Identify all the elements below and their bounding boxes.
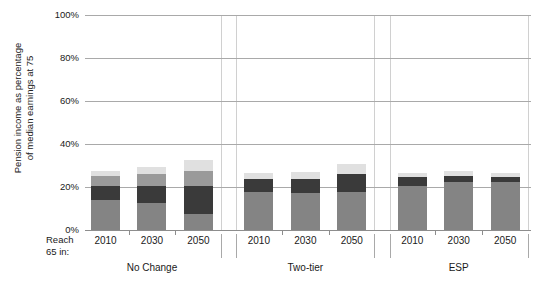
bar-segment-dark bbox=[398, 177, 427, 186]
bar-segment-base bbox=[91, 200, 120, 230]
x-axis-line bbox=[85, 230, 531, 231]
plot-area: 100%80%60%40%20%0% bbox=[85, 15, 531, 230]
bar-segment-light bbox=[184, 160, 213, 171]
bar bbox=[91, 171, 120, 230]
bar bbox=[491, 173, 520, 230]
y-axis-tick-label: 60% bbox=[43, 95, 79, 106]
bar-segment-light bbox=[291, 172, 320, 180]
x-axis-tickmark bbox=[435, 230, 436, 235]
x-axis-year-label: 2030 bbox=[283, 235, 327, 246]
gridline bbox=[85, 144, 531, 145]
gridline bbox=[85, 58, 531, 59]
x-axis-tickmark bbox=[329, 230, 330, 235]
bar bbox=[337, 164, 366, 230]
bar-segment-base bbox=[244, 192, 273, 230]
bar-segment-mid bbox=[184, 171, 213, 186]
group-separator bbox=[528, 15, 529, 230]
group-separator-lower bbox=[374, 234, 375, 258]
x-axis-tickmark bbox=[175, 230, 176, 235]
x-axis-group-label: ESP bbox=[390, 262, 528, 273]
y-axis-title: Pension income as percentage of median e… bbox=[12, 10, 36, 206]
gridline bbox=[85, 101, 531, 102]
bar-segment-dark bbox=[244, 179, 273, 192]
group-separator-lower bbox=[221, 234, 222, 258]
x-axis-group-label: Two-tier bbox=[236, 262, 374, 273]
group-separator-lower bbox=[528, 234, 529, 258]
bar-segment-base bbox=[184, 214, 213, 230]
x-axis-year-label: 2010 bbox=[237, 235, 281, 246]
bar-segment-base bbox=[337, 192, 366, 230]
bar-segment-dark bbox=[91, 186, 120, 200]
group-separator bbox=[390, 15, 391, 230]
bar-segment-mid bbox=[137, 174, 166, 186]
x-axis-year-label: 2030 bbox=[130, 235, 174, 246]
x-axis-year-label: 2010 bbox=[390, 235, 434, 246]
bar-segment-dark bbox=[184, 186, 213, 214]
group-separator bbox=[236, 15, 237, 230]
x-axis-row-label: Reach 65 in: bbox=[46, 234, 86, 257]
x-axis-tickmark bbox=[282, 230, 283, 235]
y-axis-tick-label: 20% bbox=[43, 181, 79, 192]
bar bbox=[244, 173, 273, 230]
group-separator bbox=[221, 15, 222, 230]
group-separator-lower bbox=[236, 234, 237, 258]
y-axis-tick-label: 100% bbox=[43, 9, 79, 20]
x-axis-tickmark bbox=[129, 230, 130, 235]
stacked-bar-chart: Pension income as percentage of median e… bbox=[0, 0, 536, 291]
y-axis-tick-label: 40% bbox=[43, 138, 79, 149]
group-separator-lower bbox=[390, 234, 391, 258]
x-axis-group-label: No Change bbox=[83, 262, 221, 273]
bar-segment-light bbox=[337, 164, 366, 174]
bar-segment-dark bbox=[337, 174, 366, 192]
gridline bbox=[85, 15, 531, 16]
bar-segment-base bbox=[291, 193, 320, 230]
x-axis-year-label: 2010 bbox=[84, 235, 128, 246]
bar-segment-light bbox=[137, 167, 166, 175]
x-axis-tickmark bbox=[482, 230, 483, 235]
bar bbox=[291, 172, 320, 230]
x-axis-year-label: 2050 bbox=[176, 235, 220, 246]
y-axis-tick-label: 80% bbox=[43, 52, 79, 63]
x-axis-year-label: 2050 bbox=[330, 235, 374, 246]
bar-segment-dark bbox=[291, 179, 320, 193]
bar-segment-base bbox=[398, 186, 427, 230]
group-separator bbox=[374, 15, 375, 230]
x-axis-year-label: 2030 bbox=[437, 235, 481, 246]
bar-segment-dark bbox=[137, 186, 166, 203]
bar-segment-base bbox=[491, 182, 520, 230]
bar bbox=[184, 160, 213, 230]
bar bbox=[137, 167, 166, 230]
bar-segment-mid bbox=[91, 176, 120, 186]
x-axis-year-label: 2050 bbox=[483, 235, 527, 246]
bar bbox=[398, 173, 427, 230]
bar bbox=[444, 171, 473, 230]
bar-segment-base bbox=[444, 182, 473, 230]
bar-segment-base bbox=[137, 203, 166, 230]
